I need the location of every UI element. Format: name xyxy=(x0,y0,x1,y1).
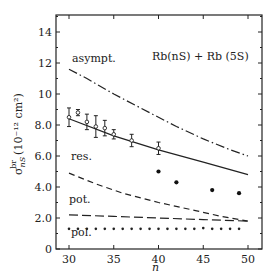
x-tick-label: 50 xyxy=(241,253,255,266)
x-tick-label: 45 xyxy=(196,253,210,266)
experiment-point-open xyxy=(157,146,161,150)
pol-dot xyxy=(148,228,151,231)
y-tick-label: 0 xyxy=(45,243,52,256)
pol-dot xyxy=(238,228,241,231)
pol-dot xyxy=(175,228,178,231)
experiment-point-filled xyxy=(156,169,160,173)
svg-text:σnSbr(10⁻¹² cm²): σnSbr(10⁻¹² cm²) xyxy=(9,93,27,175)
x-axis-label: n xyxy=(152,261,159,274)
experiment-point-filled xyxy=(237,191,241,195)
experiment-point-open xyxy=(130,139,134,143)
pol-dot xyxy=(184,228,187,231)
experiment-point-open xyxy=(94,125,98,129)
x-tick-label: 35 xyxy=(107,253,121,266)
series-line xyxy=(69,173,248,221)
pol-dot xyxy=(166,228,169,231)
pol-dot xyxy=(121,228,124,231)
y-tick-label: 2.0 xyxy=(35,212,53,225)
y-label-sub: nS xyxy=(18,156,27,167)
plot-area xyxy=(67,69,248,230)
label-asympt: asympt. xyxy=(72,52,116,65)
pol-dot xyxy=(220,228,223,231)
pol-dot xyxy=(157,228,160,231)
y-label-units: (10⁻¹² cm²) xyxy=(12,93,25,155)
series-line xyxy=(69,215,248,221)
label-res: res. xyxy=(71,150,92,163)
label-pot: pot. xyxy=(69,193,91,206)
y-tick-label: 10 xyxy=(38,88,52,101)
y-axis-label: σnSbr(10⁻¹² cm²) xyxy=(9,93,27,175)
pol-dot xyxy=(211,228,214,231)
x-tick-label: 30 xyxy=(62,253,76,266)
pol-dot xyxy=(112,228,115,231)
pol-dot xyxy=(202,227,205,230)
y-tick-label: 4.0 xyxy=(35,181,53,194)
experiment-point-open xyxy=(67,115,71,119)
pol-dot xyxy=(95,228,98,231)
pol-dot xyxy=(229,228,232,231)
label-pol: pol. xyxy=(71,226,92,239)
y-label-sup: br xyxy=(9,160,18,169)
pol-dot xyxy=(130,228,133,231)
experiment-point-filled xyxy=(210,188,214,192)
experiment-point-open xyxy=(112,133,116,137)
pol-dot xyxy=(139,228,142,231)
experiment-point-open xyxy=(103,126,107,130)
experiment-point-filled xyxy=(174,180,178,184)
y-tick-label: 12 xyxy=(38,57,52,70)
pol-dot xyxy=(68,228,71,231)
chart: 303540455002.04.06.08.0101214 Rb(nS) + R… xyxy=(0,0,274,280)
pol-dot xyxy=(193,228,196,231)
experiment-point-open xyxy=(85,120,89,124)
pol-dot xyxy=(104,228,107,231)
experiment-point-open xyxy=(76,111,80,115)
annotation-title: Rb(nS) + Rb (5S) xyxy=(152,50,249,63)
y-tick-label: 14 xyxy=(38,26,52,39)
y-tick-label: 6.0 xyxy=(35,150,53,163)
y-tick-label: 8.0 xyxy=(35,119,53,132)
